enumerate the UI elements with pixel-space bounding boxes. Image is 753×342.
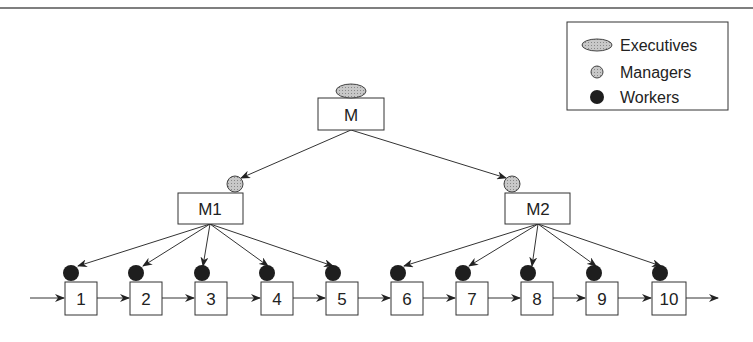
worker-icon (520, 265, 536, 281)
manager-marker-icon (591, 66, 603, 78)
manager-icon (227, 176, 243, 192)
worker-5: 5 (325, 265, 358, 315)
edges-m2-workers (404, 224, 661, 266)
node-m2: M2 (504, 176, 570, 224)
worker-10-label: 10 (660, 290, 679, 309)
edge-m-m1 (241, 130, 351, 178)
worker-1: 1 (63, 265, 97, 315)
worker-7-label: 7 (467, 290, 476, 309)
legend-executives-label: Executives (620, 37, 697, 54)
worker-4: 4 (259, 265, 293, 315)
worker-icon (455, 265, 471, 281)
worker-2-label: 2 (141, 290, 150, 309)
executive-icon (336, 84, 366, 98)
edge-m-m2 (351, 130, 506, 178)
worker-icon (194, 265, 210, 281)
worker-10: 10 (652, 265, 686, 315)
worker-4-label: 4 (272, 290, 281, 309)
executive-marker-icon (582, 39, 612, 51)
manager-icon (504, 176, 520, 192)
worker-7: 7 (455, 265, 488, 315)
legend: Executives Managers Workers (567, 22, 728, 110)
node-m-label: M (344, 106, 358, 125)
worker-1-label: 1 (76, 290, 85, 309)
hierarchy-diagram: Executives Managers Workers M M1 (0, 0, 753, 342)
worker-3: 3 (194, 265, 227, 315)
node-m: M (318, 84, 384, 130)
legend-workers-label: Workers (620, 89, 679, 106)
worker-marker-icon (590, 90, 604, 104)
legend-managers-label: Managers (620, 64, 691, 81)
worker-icon (586, 265, 602, 281)
worker-2: 2 (128, 265, 162, 315)
worker-6-label: 6 (402, 290, 411, 309)
worker-icon (128, 265, 144, 281)
worker-icon (325, 265, 341, 281)
worker-8-label: 8 (532, 290, 541, 309)
worker-icon (63, 265, 79, 281)
worker-icon (652, 265, 668, 281)
edges-m1-workers (78, 224, 333, 266)
worker-6: 6 (390, 265, 423, 315)
worker-icon (259, 265, 275, 281)
worker-9: 9 (586, 265, 618, 315)
node-m2-label: M2 (526, 200, 550, 219)
worker-3-label: 3 (206, 290, 215, 309)
worker-9-label: 9 (597, 290, 606, 309)
worker-5-label: 5 (337, 290, 346, 309)
node-m1-label: M1 (198, 200, 222, 219)
worker-icon (390, 265, 406, 281)
worker-8: 8 (520, 265, 553, 315)
node-m1: M1 (178, 176, 243, 224)
